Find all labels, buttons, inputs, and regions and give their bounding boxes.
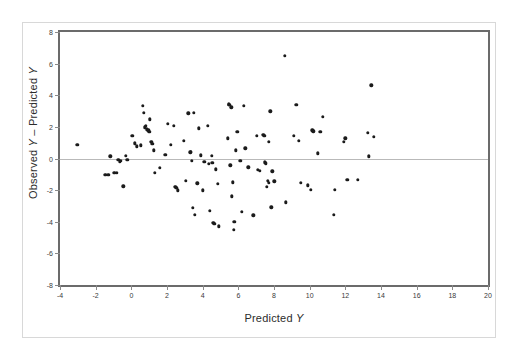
scatter-point (356, 178, 359, 181)
scatter-point (229, 105, 232, 108)
scatter-point (283, 54, 286, 57)
scatter-point (230, 194, 233, 197)
scatter-point (238, 159, 241, 162)
scatter-point (152, 149, 155, 152)
scatter-point (216, 182, 219, 185)
scatter-point (139, 144, 142, 147)
scatter-point (265, 185, 268, 188)
x-axis-tick-label: 6 (236, 292, 240, 299)
x-axis-tick-label: 20 (484, 292, 492, 299)
scatter-point (211, 161, 214, 164)
scatter-point (316, 152, 319, 155)
scatter-point (273, 180, 276, 183)
scatter-point (142, 111, 145, 114)
scatter-point (309, 188, 312, 191)
y-axis-tick (55, 253, 60, 254)
scatter-point (366, 131, 369, 134)
scatter-point (197, 126, 200, 129)
scatter-point (201, 189, 204, 192)
x-axis-tick (381, 285, 382, 290)
scatter-point (345, 178, 348, 181)
y-axis-title-text-1: Observed (27, 146, 39, 199)
scatter-point (231, 181, 234, 184)
y-axis-title-variable-2: Y (27, 67, 39, 75)
scatter-point (191, 206, 194, 209)
y-axis-tick (55, 222, 60, 223)
scatter-point (135, 144, 138, 147)
scatter-point (182, 139, 185, 142)
x-axis-tick-label: 2 (165, 292, 169, 299)
x-axis-tick (417, 285, 418, 290)
scatter-point (199, 154, 202, 157)
plot-data-area: 86420-2-4-6-8-4-202468101214161820 (60, 32, 488, 285)
y-axis-tick (55, 190, 60, 191)
scatter-point (333, 188, 336, 191)
scatter-point (367, 154, 370, 157)
y-axis-tick-label: -8 (31, 282, 53, 289)
x-axis-tick-label: 0 (129, 292, 133, 299)
x-axis-tick-label: 14 (377, 292, 385, 299)
scatter-point (189, 150, 192, 153)
scatter-point (226, 137, 229, 140)
scatter-point (236, 130, 239, 133)
scatter-point (255, 134, 258, 137)
scatter-point (203, 160, 206, 163)
scatter-point (299, 181, 302, 184)
scatter-point (169, 143, 172, 146)
scatter-point (166, 122, 169, 125)
x-axis-tick-label: 12 (341, 292, 349, 299)
zero-reference-line (60, 159, 488, 160)
scatter-point (172, 124, 175, 127)
scatter-point (246, 165, 249, 168)
scatter-point (176, 189, 179, 192)
scatter-point (267, 181, 270, 184)
scatter-point (269, 110, 272, 113)
scatter-point (109, 155, 112, 158)
scatter-point (214, 168, 217, 171)
scatter-point (270, 205, 273, 208)
y-axis-tick (55, 32, 60, 33)
scatter-point (372, 135, 375, 138)
x-axis-tick-label: -4 (57, 292, 63, 299)
scatter-point (210, 154, 213, 157)
x-axis-tick-label: 10 (306, 292, 314, 299)
scatter-point (344, 137, 347, 140)
scatter-point (196, 182, 199, 185)
scatter-point (264, 162, 267, 165)
scatter-point (312, 130, 315, 133)
x-axis-tick (488, 285, 489, 290)
scatter-point (297, 139, 300, 142)
scatter-point (148, 118, 151, 121)
scatter-point (234, 149, 237, 152)
x-axis-tick (203, 285, 204, 290)
scatter-point (153, 171, 156, 174)
x-axis-tick (274, 285, 275, 290)
y-axis-tick (55, 64, 60, 65)
plot-axes-frame: 86420-2-4-6-8-4-202468101214161820 (58, 30, 490, 287)
y-axis-tick (55, 95, 60, 96)
scatter-point (147, 130, 150, 133)
x-axis-tick (96, 285, 97, 290)
y-axis-tick (55, 159, 60, 160)
scatter-point (141, 104, 144, 107)
scatter-point (319, 130, 322, 133)
y-axis-title: Observed Y – Predicted Y (27, 28, 39, 238)
scatter-point (106, 173, 109, 176)
x-axis-title-variable: Y (296, 312, 304, 324)
x-axis-tick-label: 4 (201, 292, 205, 299)
scatter-point (124, 154, 127, 157)
scatter-point (184, 179, 187, 182)
x-axis-tick-label: 8 (272, 292, 276, 299)
x-axis-tick (452, 285, 453, 290)
scatter-point (158, 166, 161, 169)
scatter-point (240, 210, 243, 213)
x-axis-tick (345, 285, 346, 290)
scatter-point (244, 147, 247, 150)
x-axis-title-text: Predicted (244, 312, 296, 324)
x-axis-tick-label: -2 (93, 292, 99, 299)
scatter-point (271, 170, 274, 173)
scatter-point (258, 169, 261, 172)
scatter-point (208, 209, 211, 212)
y-axis-tick-label: -6 (31, 250, 53, 257)
scatter-point (233, 220, 236, 223)
